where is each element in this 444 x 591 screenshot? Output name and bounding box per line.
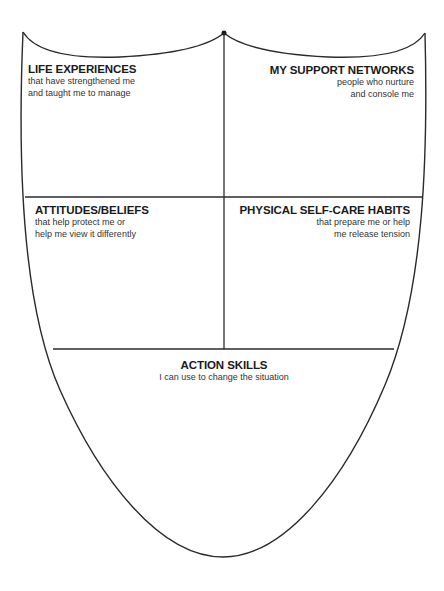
section-subtitle-line: and console me [224,89,414,101]
section-subtitle-line: I can use to change the situation [124,372,324,384]
section-subtitle-line: people who nurture [224,77,414,89]
section-action-skills: ACTION SKILLS I can use to change the si… [124,358,324,384]
section-subtitle-line: and taught me to manage [28,88,208,100]
section-subtitle-line: help me view it differently [35,229,215,241]
section-self-care-habits: PHYSICAL SELF-CARE HABITS that prepare m… [210,203,410,240]
shield-left-edge [21,32,223,557]
shield-top-right-arc [224,33,425,57]
shield-top-left-arc [23,32,224,57]
section-life-experiences: LIFE EXPERIENCES that have strengthened … [28,62,208,99]
section-title: MY SUPPORT NETWORKS [224,63,414,77]
section-subtitle-line: that prepare me or help [210,217,410,229]
shield-right-edge [223,33,426,557]
section-attitudes-beliefs: ATTITUDES/BELIEFS that help protect me o… [35,203,215,240]
section-title: ATTITUDES/BELIEFS [35,203,215,217]
section-title: LIFE EXPERIENCES [28,62,208,76]
section-support-networks: MY SUPPORT NETWORKS people who nurture a… [224,63,414,100]
section-subtitle-line: that help protect me or [35,217,215,229]
section-title: ACTION SKILLS [124,358,324,372]
section-subtitle-line: me release tension [210,229,410,241]
section-subtitle-line: that have strengthened me [28,76,208,88]
section-title: PHYSICAL SELF-CARE HABITS [210,203,410,217]
